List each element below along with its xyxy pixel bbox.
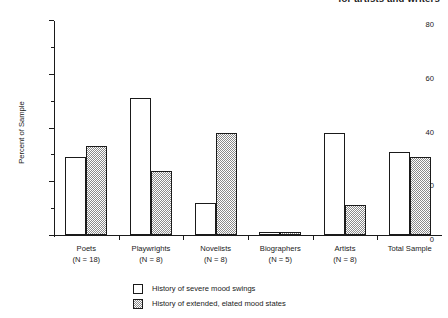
- category-sample-size: (N = 5): [248, 254, 313, 265]
- bar: [130, 98, 151, 235]
- bar: [86, 146, 107, 235]
- y-tick-major: [49, 74, 54, 75]
- y-tick-minor: [51, 101, 54, 102]
- category-sample-size: (N = 8): [183, 254, 248, 265]
- category-sample-size: (N = 18): [54, 254, 119, 265]
- y-tick-major: [49, 235, 54, 236]
- y-axis-title: Percent of Sample: [17, 78, 26, 188]
- x-tick: [377, 236, 378, 240]
- legend-item: History of extended, elated mood states: [133, 296, 286, 311]
- bar: [280, 232, 301, 235]
- category-name: Artists: [334, 244, 355, 253]
- category-label: Artists(N = 8): [313, 243, 378, 265]
- x-tick: [119, 236, 120, 240]
- category-label: Total Sample: [377, 243, 442, 254]
- bar: [324, 133, 345, 235]
- y-tick-minor: [51, 154, 54, 155]
- category-label: Poets(N = 18): [54, 243, 119, 265]
- bar: [410, 157, 431, 235]
- y-tick-minor: [51, 47, 54, 48]
- legend-swatch-open: [133, 284, 143, 294]
- bar: [345, 205, 366, 235]
- category-label: Biographers(N = 5): [248, 243, 313, 265]
- plot-area: 020406080: [54, 21, 442, 236]
- chart-legend: History of severe mood swingsHistory of …: [133, 281, 286, 311]
- legend-label: History of severe mood swings: [152, 284, 255, 293]
- x-tick: [313, 236, 314, 240]
- y-tick-minor: [51, 208, 54, 209]
- legend-label: History of extended, elated mood states: [152, 299, 286, 308]
- y-tick-major: [49, 181, 54, 182]
- bar: [195, 203, 216, 235]
- bar: [216, 133, 237, 235]
- category-sample-size: (N = 8): [313, 254, 378, 265]
- bar: [65, 157, 86, 235]
- category-name: Total Sample: [388, 244, 432, 253]
- category-sample-size: (N = 8): [119, 254, 184, 265]
- y-tick-major: [49, 128, 54, 129]
- category-name: Novelists: [200, 244, 231, 253]
- x-tick: [248, 236, 249, 240]
- category-label: Novelists(N = 8): [183, 243, 248, 265]
- y-axis-line: [54, 21, 55, 237]
- y-tick-major: [49, 20, 54, 21]
- bar: [259, 232, 280, 235]
- chart-figure: for artists and writers Percent of Sampl…: [0, 0, 448, 318]
- legend-swatch-hatched: [133, 299, 143, 309]
- bar: [389, 152, 410, 235]
- clipped-header-text: for artists and writers: [338, 0, 440, 4]
- category-name: Poets: [77, 244, 96, 253]
- category-label: Playwrights(N = 8): [119, 243, 184, 265]
- legend-item: History of severe mood swings: [133, 281, 286, 296]
- category-name: Biographers: [260, 244, 301, 253]
- category-name: Playwrights: [132, 244, 171, 253]
- bar: [151, 171, 172, 236]
- x-tick: [183, 236, 184, 240]
